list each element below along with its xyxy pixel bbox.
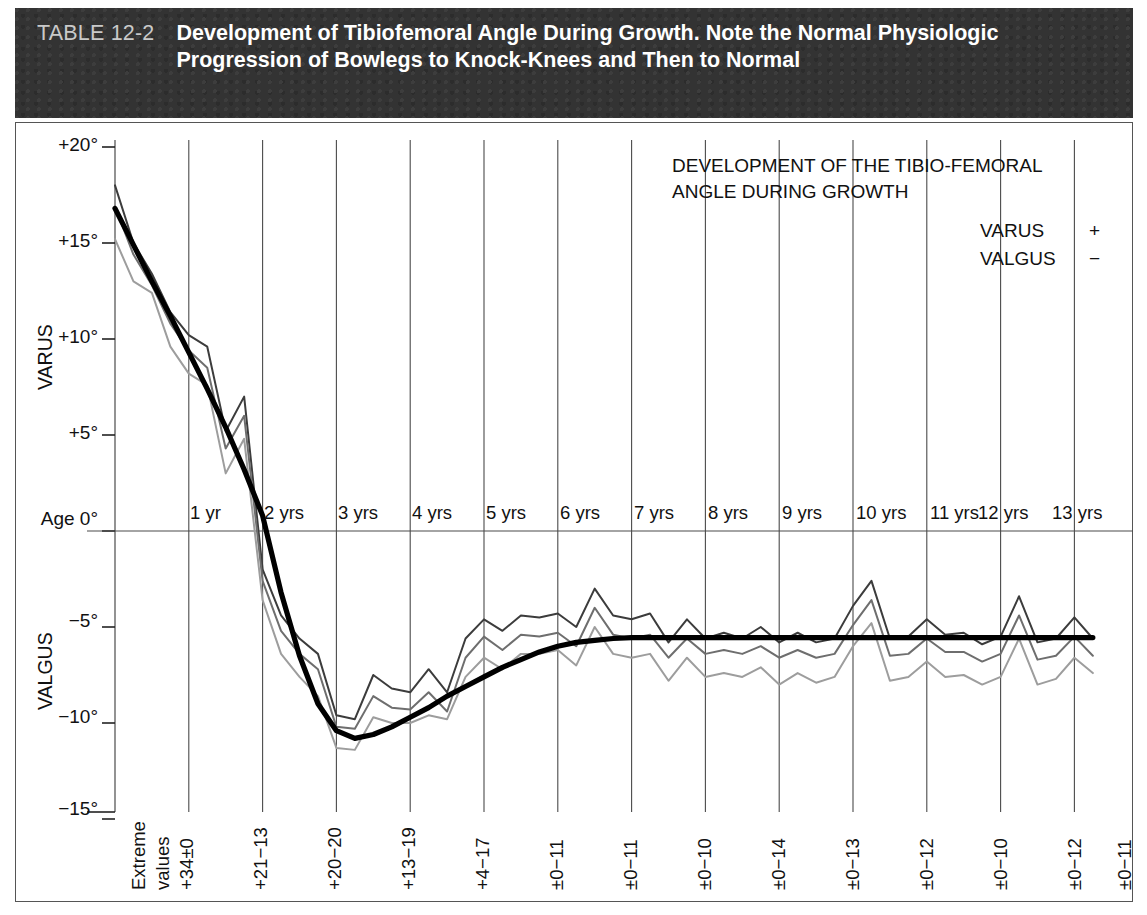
extreme-value-2: +20−20 (324, 827, 346, 890)
extreme-value-5: ±0−11 (546, 840, 568, 890)
ytick-label-neg15: −15° (28, 798, 98, 820)
legend-valgus-label: VALGUS (980, 248, 1056, 270)
legend-valgus-sign: − (1089, 248, 1100, 270)
legend-title-line2: ANGLE DURING GROWTH (672, 179, 908, 204)
age-label-4: 4 yrs (412, 502, 452, 524)
legend-title-line1: DEVELOPMENT OF THE TIBIO-FEMORAL (672, 153, 1043, 178)
table-number-label: TABLE 12-2 (15, 20, 155, 46)
extreme-value-1: +21−13 (250, 827, 272, 890)
age-label-9: 9 yrs (782, 502, 822, 524)
age-label-7: 7 yrs (634, 502, 674, 524)
age-label-1: 1 yr (190, 502, 221, 524)
extreme-value-3: +13−19 (398, 827, 420, 890)
extreme-value-11: ±0−10 (990, 838, 1012, 890)
age-label-5: 5 yrs (486, 502, 526, 524)
extreme-value-9: ±0−13 (842, 838, 864, 890)
table-title: Development of Tibiofemoral Angle During… (155, 20, 1057, 73)
extreme-values-line2: values (152, 837, 174, 890)
legend-varus-sign: + (1089, 220, 1100, 242)
ytick-label-neg5: −5° (28, 610, 98, 632)
ytick-label-20: +20° (28, 134, 98, 156)
age-label-8: 8 yrs (708, 502, 748, 524)
extreme-value-0: +34±0 (176, 838, 198, 890)
extreme-value-8: ±0−14 (768, 838, 790, 890)
ytick-label-5: +5° (28, 422, 98, 444)
axis-title-valgus: VALGUS (34, 632, 57, 710)
ytick-label-15: +15° (28, 230, 98, 252)
extreme-value-4: +4−17 (472, 838, 494, 890)
table-figure-root: TABLE 12-2 Development of Tibiofemoral A… (0, 0, 1147, 915)
legend-varus-label: VARUS (980, 220, 1044, 242)
age-label-11: 11 yrs (930, 502, 979, 524)
ytick-label-0: Age 0° (22, 508, 98, 530)
age-label-2: 2 yrs (264, 502, 304, 524)
age-label-10: 10 yrs (856, 502, 906, 524)
age-label-3: 3 yrs (338, 502, 378, 524)
age-label-6: 6 yrs (560, 502, 600, 524)
age-label-13: 13 yrs (1052, 502, 1102, 524)
age-label-12: 12 yrs (978, 502, 1028, 524)
extreme-value-13: ±0−11 (1114, 840, 1136, 890)
table-header-banner: TABLE 12-2 Development of Tibiofemoral A… (15, 8, 1133, 118)
extreme-value-12: ±0−12 (1064, 838, 1086, 890)
axis-title-varus: VARUS (34, 324, 57, 390)
extreme-value-6: ±0−11 (620, 840, 642, 890)
extreme-value-7: ±0−10 (694, 838, 716, 890)
extreme-values-line1: Extreme (128, 821, 150, 890)
extreme-value-10: ±0−12 (916, 838, 938, 890)
